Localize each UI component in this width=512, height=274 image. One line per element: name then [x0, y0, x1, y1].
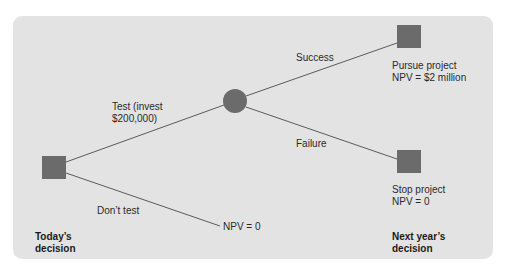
- chance-node: [223, 89, 247, 113]
- dont-test-label: Don’t test: [97, 205, 139, 217]
- today-footer-line2: decision: [35, 243, 76, 255]
- failure-label: Failure: [296, 138, 327, 150]
- success-label: Success: [296, 52, 334, 64]
- pursue-npv-label: NPV = $2 million: [392, 72, 466, 84]
- test-label-line2: $200,000): [112, 113, 163, 125]
- stop-project-label: Stop project NPV = 0: [392, 184, 445, 208]
- pursue-project-label: Pursue project NPV = $2 million: [392, 60, 466, 84]
- pursue-label-line1: Pursue project: [392, 60, 466, 72]
- next-footer-line1: Next year’s: [392, 231, 445, 243]
- test-branch-label: Test (invest $200,000): [112, 101, 163, 125]
- branch-success: [246, 43, 397, 96]
- branch-dont-test: [66, 173, 220, 226]
- pursue-node: [397, 25, 421, 48]
- next-footer-line2: decision: [392, 243, 445, 255]
- stop-node: [397, 150, 421, 173]
- test-label-line1: Test (invest: [112, 101, 163, 113]
- dont-test-outcome-label: NPV = 0: [223, 221, 261, 233]
- next-years-decision-footer: Next year’s decision: [392, 231, 445, 255]
- stop-npv-label: NPV = 0: [392, 196, 445, 208]
- todays-decision-footer: Today’s decision: [35, 231, 76, 255]
- stop-label-line1: Stop project: [392, 184, 445, 196]
- today-decision-node: [42, 156, 66, 179]
- branch-failure: [246, 107, 397, 159]
- today-footer-line1: Today’s: [35, 231, 76, 243]
